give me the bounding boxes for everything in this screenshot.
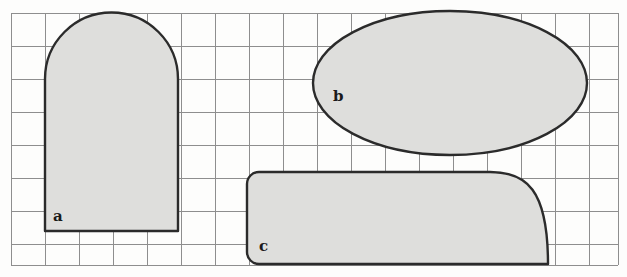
- shape-label-b: b: [333, 87, 344, 105]
- shape-a-outline: [45, 13, 178, 232]
- shape-label-c: c: [259, 237, 268, 255]
- shape-c-outline: [247, 172, 548, 264]
- shape-label-a: a: [53, 207, 63, 225]
- grid-figure-svg: a b c: [0, 0, 627, 277]
- shape-b-outline: [313, 11, 587, 155]
- figure-canvas: a b c: [0, 0, 627, 277]
